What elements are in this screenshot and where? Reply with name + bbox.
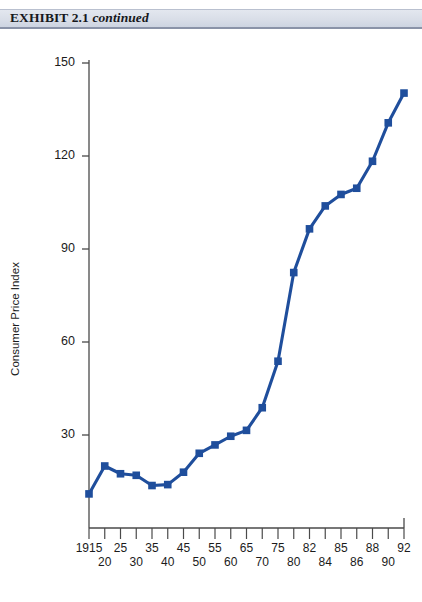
- x-tick-label: 70: [256, 555, 269, 569]
- x-tick-label: 80: [287, 555, 300, 569]
- x-tick-label: 82: [303, 541, 316, 555]
- plot-canvas: [0, 29, 422, 602]
- data-point-marker: [180, 468, 188, 476]
- cpi-line-chart: Consumer Price Index 306090120150 191520…: [0, 29, 422, 602]
- data-point-marker: [243, 427, 251, 435]
- data-point-marker: [369, 157, 377, 165]
- x-tick-label: 92: [397, 541, 410, 555]
- data-point-marker: [258, 404, 266, 412]
- y-tick-label: 90: [35, 241, 75, 255]
- data-point-marker: [290, 269, 298, 277]
- data-point-marker: [400, 89, 408, 97]
- x-tick-label: 30: [130, 555, 143, 569]
- exhibit-title: EXHIBIT 2.1 continued: [10, 10, 149, 26]
- x-tick-label: 55: [208, 541, 221, 555]
- data-point-marker: [274, 357, 282, 365]
- data-point-marker: [227, 432, 235, 440]
- data-point-marker: [164, 481, 172, 489]
- x-tick-label: 85: [334, 541, 347, 555]
- data-point-marker: [306, 225, 314, 233]
- x-tick-label: 86: [350, 555, 363, 569]
- data-point-marker: [148, 482, 156, 490]
- x-tick-label: 50: [193, 555, 206, 569]
- exhibit-label: EXHIBIT 2.1: [10, 10, 89, 25]
- x-tick-label: 35: [145, 541, 158, 555]
- x-tick-label: 45: [177, 541, 190, 555]
- data-point-marker: [85, 490, 93, 498]
- y-tick-label: 120: [35, 148, 75, 162]
- x-tick-label: 20: [98, 555, 111, 569]
- x-tick-label: 90: [382, 555, 395, 569]
- data-point-marker: [384, 119, 392, 127]
- data-point-marker: [321, 202, 329, 210]
- data-point-marker: [117, 470, 125, 478]
- exhibit-continued-note: continued: [92, 10, 148, 25]
- x-tick-label: 75: [271, 541, 284, 555]
- data-point-marker: [132, 472, 140, 480]
- y-tick-label: 30: [35, 427, 75, 441]
- y-tick-label: 60: [35, 334, 75, 348]
- data-point-marker: [101, 462, 109, 470]
- y-tick-label: 150: [35, 55, 75, 69]
- x-tick-label: 1915: [76, 541, 103, 555]
- x-tick-label: 88: [366, 541, 379, 555]
- data-point-marker: [337, 191, 345, 199]
- data-point-marker: [195, 449, 203, 457]
- x-tick-label: 65: [240, 541, 253, 555]
- x-tick-label: 40: [161, 555, 174, 569]
- x-tick-label: 84: [319, 555, 332, 569]
- data-point-marker: [211, 441, 219, 449]
- data-point-marker: [353, 184, 361, 192]
- x-tick-label: 25: [114, 541, 127, 555]
- x-tick-label: 60: [224, 555, 237, 569]
